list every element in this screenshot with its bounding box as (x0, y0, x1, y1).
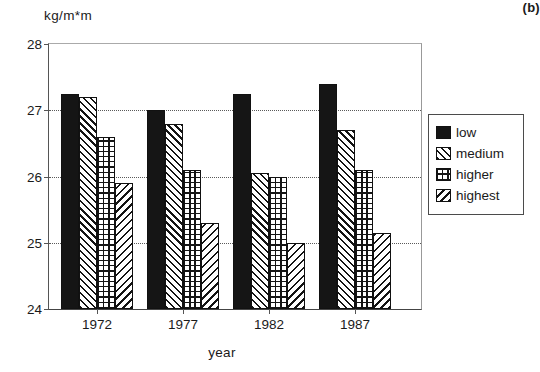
legend-label-medium: medium (456, 146, 504, 161)
legend-item-low: low (436, 122, 517, 143)
x-tick-mark-1972 (97, 309, 98, 314)
panel-label: (b) (523, 0, 540, 15)
bar-low-1987 (319, 84, 337, 309)
legend-swatch-medium-icon (436, 147, 451, 160)
bar-chart-figure: kg/m*m (b) 24252627281972197719821987 ye… (0, 0, 540, 372)
bar-medium-1987 (337, 130, 355, 309)
bar-higher-1982 (269, 177, 287, 310)
bar-higher-1977 (183, 170, 201, 309)
bar-low-1972 (61, 94, 79, 309)
legend-item-medium: medium (436, 143, 517, 164)
bar-low-1982 (233, 94, 251, 309)
legend-swatch-higher-icon (436, 168, 451, 181)
x-tick-label-1972: 1972 (82, 317, 112, 332)
bar-medium-1972 (79, 97, 97, 309)
x-tick-label-1982: 1982 (254, 317, 284, 332)
y-tick-label-25: 25 (27, 235, 49, 250)
bar-medium-1982 (251, 173, 269, 309)
legend-item-highest: highest (436, 185, 517, 206)
bar-group-1982 (233, 44, 305, 309)
bar-medium-1977 (165, 124, 183, 310)
x-axis-title-text: year (208, 345, 235, 360)
x-axis-title: year (0, 345, 540, 360)
y-tick-label-27: 27 (27, 103, 49, 118)
y-tick-label-28: 28 (27, 37, 49, 52)
legend-swatch-low-icon (436, 126, 451, 139)
y-axis-unit-label: kg/m*m (44, 8, 92, 23)
bar-low-1977 (147, 110, 165, 309)
x-tick-mark-1987 (355, 309, 356, 314)
bar-group-1972 (61, 44, 133, 309)
bar-highest-1987 (373, 233, 391, 309)
x-tick-mark-1982 (269, 309, 270, 314)
bar-highest-1972 (115, 183, 133, 309)
y-tick-label-26: 26 (27, 169, 49, 184)
legend-label-higher: higher (456, 167, 494, 182)
y-tick-label-24: 24 (27, 302, 49, 317)
x-tick-label-1977: 1977 (168, 317, 198, 332)
bar-higher-1987 (355, 170, 373, 309)
bar-highest-1977 (201, 223, 219, 309)
bar-group-1987 (319, 44, 391, 309)
legend: low medium higher highest (428, 114, 524, 215)
legend-label-low: low (456, 125, 476, 140)
plot-area: 24252627281972197719821987 (48, 43, 422, 310)
legend-swatch-highest-icon (436, 189, 451, 202)
legend-label-highest: highest (456, 188, 500, 203)
x-tick-label-1987: 1987 (340, 317, 370, 332)
plot-inner: 24252627281972197719821987 (49, 44, 421, 309)
x-tick-mark-1977 (183, 309, 184, 314)
bar-highest-1982 (287, 243, 305, 309)
bar-group-1977 (147, 44, 219, 309)
bar-higher-1972 (97, 137, 115, 309)
legend-item-higher: higher (436, 164, 517, 185)
